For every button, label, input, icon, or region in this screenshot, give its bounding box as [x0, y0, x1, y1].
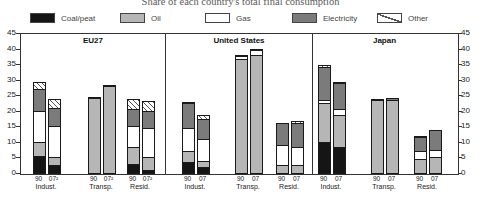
electricity-segment: [197, 120, 210, 140]
sector-label: Resid.: [405, 183, 449, 190]
y-tick-label-right: 20: [461, 106, 481, 116]
oil-segment: [414, 160, 427, 174]
electricity-segment: [318, 68, 331, 101]
oil-segment: [127, 148, 140, 165]
electricity-swatch-icon: [292, 13, 317, 23]
year-label: 90: [233, 175, 248, 182]
stacked-bar-07: [386, 98, 399, 174]
stacked-bar-90: [127, 99, 140, 174]
year-label: 90: [31, 175, 46, 182]
year-label: 07: [331, 175, 346, 182]
y-tick-mark: [458, 157, 462, 158]
bar-group: [414, 130, 442, 174]
stacked-bar-07: [333, 82, 346, 174]
oil-segment: [429, 158, 442, 174]
legend-label: Gas: [236, 14, 251, 23]
year-label: 07: [195, 175, 210, 182]
coal-segment: [127, 165, 140, 174]
stacked-bar-07: [103, 85, 116, 174]
stacked-bar-90: [88, 97, 101, 174]
oil-swatch-icon: [120, 13, 145, 23]
bar-group: [127, 99, 155, 174]
y-tick-label-left: 35: [0, 59, 16, 69]
coal-segment: [142, 171, 155, 174]
gas-segment: [33, 112, 46, 143]
y-tick-mark: [458, 33, 462, 34]
sector-label: Transp.: [362, 183, 406, 190]
year-labels: 9007²: [31, 175, 61, 182]
panel-japan: Japan: [313, 34, 456, 174]
coal-segment: [197, 168, 210, 174]
y-tick-mark: [458, 173, 462, 174]
electricity-segment: [429, 130, 442, 150]
panel-title: United States: [166, 36, 312, 45]
electricity-segment: [333, 84, 346, 110]
oil-segment: [142, 158, 155, 170]
year-labels: 9007: [180, 175, 210, 182]
panel-eu27: EU27: [21, 34, 166, 174]
oil-segment: [88, 99, 101, 174]
other-segment: [127, 99, 140, 110]
year-label: 90: [86, 175, 101, 182]
year-label: 07²: [46, 175, 61, 182]
year-label: 07: [384, 175, 399, 182]
y-tick-mark: [16, 126, 20, 127]
bar-group: [276, 121, 304, 174]
stacked-bar-90: [276, 123, 289, 174]
legend-item-coal: Coal/peat: [30, 13, 95, 23]
year-label: 90: [180, 175, 195, 182]
panel-title: Japan: [313, 36, 456, 45]
oil-segment: [333, 116, 346, 147]
y-tick-mark: [458, 142, 462, 143]
stacked-bar-07: [250, 49, 263, 174]
bar-group: [182, 102, 210, 174]
oil-segment: [318, 104, 331, 143]
electricity-segment: [276, 123, 289, 146]
legend-item-gas: Gas: [205, 13, 251, 23]
y-tick-mark: [16, 157, 20, 158]
chart-title: Share of each country's total final cons…: [0, 0, 481, 7]
y-tick-label-right: 5: [461, 152, 481, 162]
oil-segment: [291, 166, 304, 174]
legend-item-other: Other: [377, 13, 428, 23]
gas-segment: [197, 140, 210, 162]
y-tick-label-right: 35: [461, 59, 481, 69]
y-tick-label-right: 0: [461, 168, 481, 178]
y-tick-mark: [16, 173, 20, 174]
oil-segment: [48, 158, 61, 166]
y-tick-label-left: 5: [0, 152, 16, 162]
stacked-bar-07: [142, 101, 155, 174]
year-labels: 9007: [274, 175, 304, 182]
gas-segment: [142, 129, 155, 159]
y-tick-label-left: 30: [0, 75, 16, 85]
gas-segment: [429, 151, 442, 159]
year-labels: 9007: [316, 175, 346, 182]
y-tick-label-left: 40: [0, 44, 16, 54]
gas-segment: [127, 127, 140, 147]
sector-label: Indust.: [173, 183, 217, 190]
oil-segment: [250, 56, 263, 174]
legend: Coal/peatOilGasElectricityOther: [0, 13, 481, 27]
stacked-bar-90: [414, 136, 427, 174]
stacked-bar-90: [182, 102, 195, 174]
gas-segment: [182, 129, 195, 152]
year-label: 07²: [140, 175, 155, 182]
year-label: 90: [412, 175, 427, 182]
coal-swatch-icon: [30, 13, 55, 23]
y-tick-label-right: 15: [461, 121, 481, 131]
year-label: 07: [289, 175, 304, 182]
panel-united-states: United States: [166, 34, 313, 174]
oil-segment: [371, 101, 384, 174]
stacked-bar-90: [235, 55, 248, 174]
bar-group: [318, 65, 346, 174]
coal-segment: [33, 157, 46, 174]
year-labels: 9007: [412, 175, 442, 182]
figure: Share of each country's total final cons…: [0, 0, 481, 198]
gas-swatch-icon: [205, 13, 230, 23]
year-label: 07²: [101, 175, 116, 182]
coal-segment: [333, 148, 346, 174]
y-tick-mark: [16, 64, 20, 65]
y-tick-mark: [458, 111, 462, 112]
bar-group: [235, 49, 263, 174]
stacked-bar-90: [33, 82, 46, 174]
